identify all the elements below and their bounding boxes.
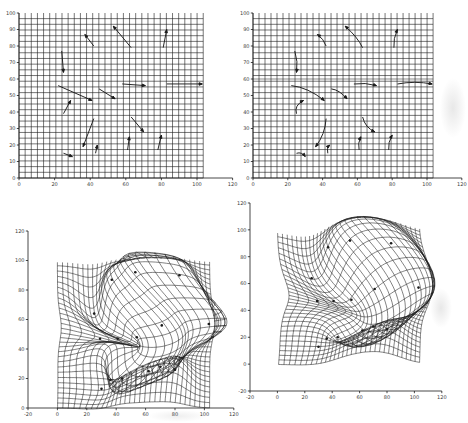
landmark-dot <box>135 336 138 339</box>
arrowhead <box>390 135 393 138</box>
y-tick-label: 90 <box>9 26 15 32</box>
x-tick-label: 80 <box>389 181 395 187</box>
landmark-dot <box>99 337 102 340</box>
landmark-dot <box>325 337 328 340</box>
x-tick-label: 100 <box>422 181 432 187</box>
y-tick-label: 40 <box>9 109 15 115</box>
x-tick-label: 0 <box>251 181 254 187</box>
arrowhead <box>358 137 361 140</box>
arrowhead <box>371 129 375 132</box>
x-tick-label: 20 <box>285 181 291 187</box>
warped-grid-layer <box>57 252 227 409</box>
y-tick-label: 20 <box>243 142 249 148</box>
landmark-dot <box>121 377 124 380</box>
arrowhead <box>429 82 432 85</box>
y-tick-label: 60 <box>9 76 15 82</box>
y-tick-label: 70 <box>9 59 15 65</box>
landmark-dot <box>178 274 181 277</box>
arrows-layer <box>58 26 202 157</box>
landmark-dot <box>174 368 177 371</box>
y-tick-label: 120 <box>237 200 247 206</box>
top-left-plot: 0204060801001200102030405060708090100 <box>0 0 234 200</box>
y-tick-label: 0 <box>246 175 249 181</box>
x-tick-label: 20 <box>84 411 90 417</box>
y-tick-label: 60 <box>18 316 24 322</box>
arrowhead <box>69 154 73 157</box>
y-tick-label: 40 <box>240 307 246 313</box>
landmark-dot <box>147 370 150 373</box>
x-tick-label: 80 <box>172 411 178 417</box>
y-tick-label: 20 <box>18 375 24 381</box>
landmark-dot <box>417 286 420 289</box>
y-tick-label: 120 <box>15 228 25 234</box>
x-tick-label: 40 <box>329 394 335 400</box>
y-tick-label: 80 <box>243 43 249 49</box>
landmark-dot <box>93 312 96 315</box>
arrowhead <box>373 84 376 87</box>
landmark-dot <box>390 242 393 245</box>
y-tick-label: 0 <box>243 361 246 367</box>
y-tick-label: 80 <box>18 287 24 293</box>
arrows-layer <box>291 26 432 156</box>
y-tick-label: 100 <box>6 10 16 16</box>
landmark-dot <box>361 329 364 332</box>
arrowhead <box>159 135 162 138</box>
y-tick-label: 60 <box>240 280 246 286</box>
arrowhead <box>300 101 304 104</box>
x-tick-label: 60 <box>356 394 362 400</box>
y-tick-label: 20 <box>9 142 15 148</box>
y-tick-label: 10 <box>243 158 249 164</box>
arrowhead <box>128 137 131 140</box>
y-tick-label: 20 <box>240 334 246 340</box>
landmark-dot <box>349 239 352 242</box>
arrowhead <box>95 145 98 148</box>
x-tick-label: 0 <box>56 411 59 417</box>
landmark-dot <box>372 325 375 328</box>
grid-layer <box>19 13 203 178</box>
y-tick-label: 40 <box>243 109 249 115</box>
landmark-dot <box>310 277 313 280</box>
landmarks-layer <box>93 271 210 390</box>
landmark-dot <box>316 300 319 303</box>
x-tick-label: -20 <box>246 394 254 400</box>
x-tick-label: 100 <box>192 181 202 187</box>
y-tick-label: 70 <box>243 59 249 65</box>
y-tick-label: 50 <box>243 92 249 98</box>
x-tick-label: 120 <box>457 181 467 187</box>
y-tick-label: 80 <box>9 43 15 49</box>
landmark-dot <box>317 345 320 348</box>
landmark-dot <box>100 388 103 391</box>
arrowhead <box>296 69 299 72</box>
x-tick-label: 0 <box>276 394 279 400</box>
landmark-dot <box>116 337 119 340</box>
landmark-dot <box>336 336 339 339</box>
landmark-dot <box>159 365 162 368</box>
figure-scan: 0204060801001200102030405060708090100 02… <box>0 0 468 423</box>
x-tick-label: 120 <box>437 394 447 400</box>
y-tick-label: 0 <box>12 175 15 181</box>
x-tick-label: 20 <box>302 394 308 400</box>
landmark-dot <box>350 298 353 301</box>
x-tick-label: 0 <box>17 181 20 187</box>
arrowhead <box>199 83 202 86</box>
x-tick-label: 60 <box>142 411 148 417</box>
landmark-dot <box>386 328 389 331</box>
x-tick-label: 60 <box>123 181 129 187</box>
y-tick-label: 50 <box>9 92 15 98</box>
x-tick-label: 100 <box>410 394 420 400</box>
landmark-dot <box>327 246 330 249</box>
y-tick-label: 100 <box>237 227 247 233</box>
x-tick-label: 20 <box>51 181 57 187</box>
y-tick-label: 10 <box>9 158 15 164</box>
landmark-dot <box>134 271 137 274</box>
y-tick-label: 40 <box>18 346 24 352</box>
x-tick-label: 60 <box>354 181 360 187</box>
y-tick-label: 30 <box>9 125 15 131</box>
landmark-dot <box>109 379 112 382</box>
landmark-dot <box>208 323 211 326</box>
y-tick-label: 30 <box>243 125 249 131</box>
y-tick-label: 100 <box>15 257 25 263</box>
x-tick-label: 80 <box>384 394 390 400</box>
arrowhead <box>62 69 65 72</box>
x-tick-label: 80 <box>158 181 164 187</box>
